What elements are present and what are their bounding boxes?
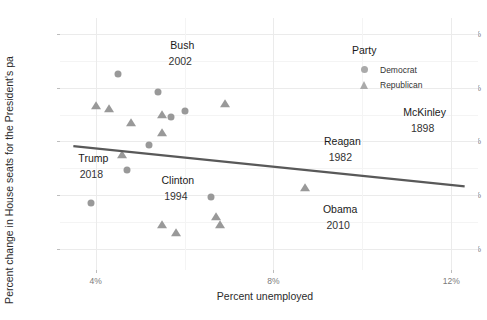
annotation-year: 1982 <box>329 151 352 163</box>
annotation-label: Reagan <box>324 135 361 147</box>
annotation-year: 2002 <box>169 55 192 67</box>
data-point-republican <box>157 110 167 118</box>
circle-marker-icon <box>356 66 372 73</box>
data-point-republican <box>126 118 136 126</box>
data-point-republican <box>157 128 167 136</box>
legend-label: Republican <box>380 80 423 90</box>
annotation-label: Obama <box>323 203 357 215</box>
gridline-horizontal <box>60 249 478 250</box>
gridline-horizontal <box>60 34 478 35</box>
data-point-republican <box>215 220 225 228</box>
data-point-republican <box>300 183 310 191</box>
data-point-republican <box>117 150 127 158</box>
x-tick-mark <box>96 270 97 273</box>
annotation-year: 2018 <box>80 168 103 180</box>
data-point-democrat <box>181 107 188 114</box>
annotation-label: Trump <box>78 152 108 164</box>
legend-entry-republican[interactable]: Republican <box>356 77 448 92</box>
data-point-republican <box>91 101 101 109</box>
legend-entries: DemocratRepublican <box>338 62 448 92</box>
data-point-republican <box>171 228 181 236</box>
annotation-label: McKinley <box>403 106 446 118</box>
data-point-democrat <box>154 88 161 95</box>
annotation-year: 2010 <box>326 219 349 231</box>
legend-title: Party <box>352 44 448 56</box>
data-point-republican <box>220 99 230 107</box>
data-point-democrat <box>168 114 175 121</box>
data-point-democrat <box>208 194 215 201</box>
annotation-label: Bush <box>170 39 194 51</box>
data-point-democrat <box>88 199 95 206</box>
annotation-year: 1898 <box>411 122 434 134</box>
x-tick-mark <box>273 270 274 273</box>
legend-label: Democrat <box>380 65 417 75</box>
gridline-vertical <box>96 18 97 270</box>
gridline-vertical <box>451 18 452 270</box>
annotation-year: 1994 <box>164 190 187 202</box>
gridline-horizontal <box>60 195 478 196</box>
x-tick-label: 12% <box>431 276 471 286</box>
data-point-democrat <box>123 166 130 173</box>
legend: Party DemocratRepublican <box>338 44 448 92</box>
x-tick-label: 4% <box>76 276 116 286</box>
x-axis-title: Percent unemployed <box>60 290 470 302</box>
data-point-democrat <box>145 141 152 148</box>
gridline-horizontal-minor <box>60 222 478 223</box>
gridline-horizontal <box>60 141 478 142</box>
data-point-republican <box>157 220 167 228</box>
data-point-republican <box>104 104 114 112</box>
x-tick-label: 8% <box>253 276 293 286</box>
chart-figure: Percent change in House seats for the Pr… <box>0 0 487 320</box>
legend-entry-democrat[interactable]: Democrat <box>356 62 448 77</box>
data-point-democrat <box>114 71 121 78</box>
x-tick-mark <box>451 270 452 273</box>
triangle-marker-icon <box>356 81 372 89</box>
annotation-label: Clinton <box>161 174 194 186</box>
y-axis-title: Percent change in House seats for the Pr… <box>0 20 18 320</box>
gridline-vertical <box>273 18 274 270</box>
